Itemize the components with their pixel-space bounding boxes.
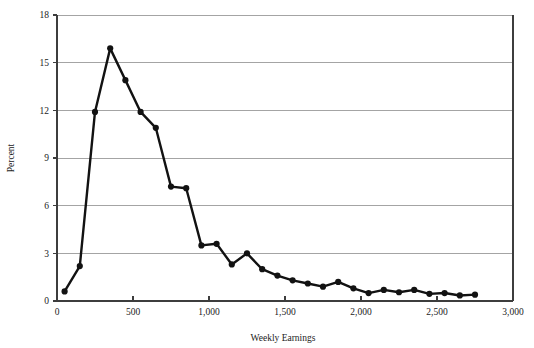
data-point [381,287,387,293]
data-point [426,291,432,297]
data-point [472,292,478,298]
data-point [198,242,204,248]
x-tick-label-1000: 1,000 [198,307,220,317]
x-tick-label-0: 0 [55,307,60,317]
y-tick-label-6: 6 [44,201,49,211]
x-axis-title: Weekly Earnings [251,333,316,343]
x-tick-label-2000: 2,000 [350,307,372,317]
gridlines [57,15,513,301]
data-point [457,292,463,298]
x-tick-label-500: 500 [126,307,141,317]
data-point [168,184,174,190]
data-point [138,109,144,115]
data-point [274,272,280,278]
y-tick-label-12: 12 [40,106,50,116]
data-point [290,277,296,283]
data-point [259,266,265,272]
x-tick-label-1500: 1,500 [274,307,296,317]
data-point [320,284,326,290]
y-tick-label-9: 9 [44,153,49,163]
data-point [350,285,356,291]
y-tick-label-18: 18 [40,10,50,20]
data-point [107,45,113,51]
data-point [411,287,417,293]
x-tick-label-2500: 2,500 [426,307,448,317]
x-axis: 05001,0001,5002,0002,5003,000 [55,296,524,317]
data-point [244,250,250,256]
data-point [366,290,372,296]
data-point [396,289,402,295]
y-tick-label-15: 15 [40,58,50,68]
data-point [229,261,235,267]
data-point [214,241,220,247]
data-point [77,263,83,269]
data-point [335,279,341,285]
data-point [305,280,311,286]
x-tick-label-3000: 3,000 [502,307,524,317]
y-axis-title: Percent [6,143,16,172]
chart-container: 0369121518 05001,0001,5002,0002,5003,000… [0,0,534,348]
y-tick-label-3: 3 [44,249,49,259]
data-point [62,288,68,294]
line-chart: 0369121518 05001,0001,5002,0002,5003,000… [0,0,534,348]
data-point [122,77,128,83]
data-point [92,109,98,115]
y-tick-label-0: 0 [44,296,49,306]
data-series [62,45,479,298]
data-point [153,125,159,131]
data-point [442,290,448,296]
series-line-percent [65,48,475,295]
data-point [183,185,189,191]
